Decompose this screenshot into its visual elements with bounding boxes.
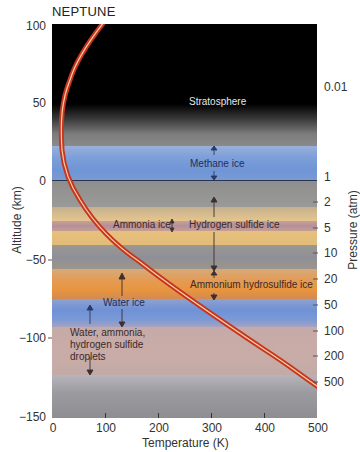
label-ammonia-ice: Ammonia ice — [113, 219, 171, 230]
pressure-tick-1: 1 — [324, 170, 331, 184]
label-droplets-line1: Water, ammonia, — [70, 327, 145, 338]
x-axis-label: Temperature (K) — [142, 436, 229, 450]
x-tick-0: 0 — [38, 421, 68, 435]
label-hydrogen-sulfide-ice: Hydrogen sulfide ice — [189, 219, 280, 230]
y-tick-100: 100 — [10, 19, 46, 33]
y2-axis-label: Pressure (atm) — [346, 180, 360, 280]
label-droplets-line3: droplets — [70, 351, 106, 362]
label-ammonium-hydrosulfide-ice: Ammonium hydrosulfide ice — [190, 279, 313, 290]
x-tick-200: 200 — [144, 421, 174, 435]
y-axis-label: Altitude (km) — [10, 175, 24, 265]
pressure-tick-5: 5 — [324, 221, 331, 235]
pressure-tick-2: 2 — [324, 195, 331, 209]
pressure-tick-20: 20 — [324, 272, 337, 286]
pressure-ticks — [313, 202, 318, 382]
y-tick-minus100: −100 — [10, 331, 46, 345]
pressure-tick-500: 500 — [324, 375, 344, 389]
y-tick-50: 50 — [10, 96, 46, 110]
droplet-arrows — [87, 305, 93, 324]
label-methane-ice: Methane ice — [190, 158, 244, 169]
label-stratosphere: Stratosphere — [189, 96, 246, 107]
x-tick-500: 500 — [303, 421, 333, 435]
x-tick-400: 400 — [250, 421, 280, 435]
pressure-tick-200: 200 — [324, 349, 344, 363]
pressure-tick-50: 50 — [324, 298, 337, 312]
altitude-ticks — [48, 260, 52, 338]
label-water-ice: Water ice — [103, 297, 145, 308]
pressure-tick-0.01: 0.01 — [324, 80, 347, 94]
label-droplets-line2: hydrogen sulfide — [70, 339, 143, 350]
chart-overlay — [0, 0, 360, 452]
x-tick-100: 100 — [91, 421, 121, 435]
x-tick-300: 300 — [197, 421, 227, 435]
pressure-tick-10: 10 — [324, 246, 337, 260]
pressure-tick-100: 100 — [324, 324, 344, 338]
